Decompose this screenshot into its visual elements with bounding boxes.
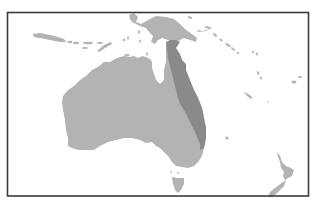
- lord-howe-island: [225, 136, 228, 139]
- map: [0, 0, 313, 201]
